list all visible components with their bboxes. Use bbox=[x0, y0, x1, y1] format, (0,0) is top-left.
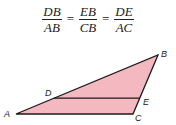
vertex-label-e: E bbox=[143, 97, 150, 107]
triangle-figure: A B C D E bbox=[0, 0, 176, 125]
vertex-label-c: C bbox=[135, 113, 142, 123]
vertex-label-d: D bbox=[45, 88, 52, 98]
vertex-label-a: A bbox=[3, 109, 10, 119]
vertex-label-b: B bbox=[161, 49, 167, 59]
triangle-abc bbox=[16, 55, 158, 114]
